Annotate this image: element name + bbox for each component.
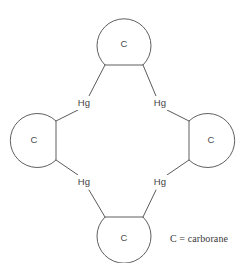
carborane-cage-top: C bbox=[97, 19, 151, 65]
cage-label-top: C bbox=[120, 38, 127, 49]
cage-label-bottom: C bbox=[120, 232, 127, 243]
bond-hg-top-right-to-right-cage bbox=[167, 110, 189, 121]
metal-label-top-left: Hg bbox=[78, 97, 91, 108]
bond-top-cage-to-hg-top-right bbox=[143, 65, 156, 96]
cage-label-left: C bbox=[30, 134, 37, 145]
carborane-cage-right: C bbox=[189, 114, 235, 168]
legend-caption: C = carborane bbox=[170, 233, 228, 244]
structure-diagram: C C C C Hg Hg Hg Hg bbox=[0, 0, 242, 263]
carborane-cage-left: C bbox=[10, 113, 56, 167]
metal-label-bottom-right: Hg bbox=[154, 176, 167, 187]
metal-label-bottom-left: Hg bbox=[78, 176, 91, 187]
bond-hg-bottom-right-to-bottom-cage bbox=[143, 190, 156, 217]
chemical-structure-figure: C C C C Hg Hg Hg Hg C = carbor bbox=[0, 0, 242, 263]
bond-left-cage-to-hg-bottom-left bbox=[56, 160, 78, 175]
bond-hg-top-left-to-left-cage bbox=[56, 110, 78, 121]
bond-hg-bottom-left-to-bottom-cage bbox=[89, 190, 105, 217]
cage-label-right: C bbox=[207, 134, 214, 145]
metal-label-group: Hg Hg Hg Hg bbox=[74, 96, 171, 189]
metal-label-top-right: Hg bbox=[154, 97, 167, 108]
bond-group bbox=[56, 65, 189, 217]
carborane-cage-bottom: C bbox=[97, 217, 151, 263]
bond-top-cage-to-hg-top-left bbox=[89, 65, 105, 96]
bond-right-cage-to-hg-bottom-right bbox=[167, 160, 189, 175]
